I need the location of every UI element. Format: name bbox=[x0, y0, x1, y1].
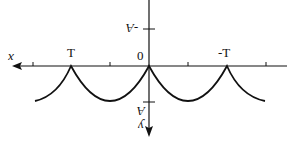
x-tick-label-neg-t: -T bbox=[218, 46, 230, 59]
origin-label: 0 bbox=[137, 49, 144, 62]
curve bbox=[35, 66, 265, 101]
y-tick-label-a: A bbox=[137, 105, 145, 118]
y-tick-label-neg-a: -A bbox=[126, 22, 138, 35]
y-axis-label: y bbox=[138, 120, 144, 133]
x-tick-label-t: T bbox=[67, 46, 75, 59]
x-axis-label: x bbox=[8, 52, 14, 65]
